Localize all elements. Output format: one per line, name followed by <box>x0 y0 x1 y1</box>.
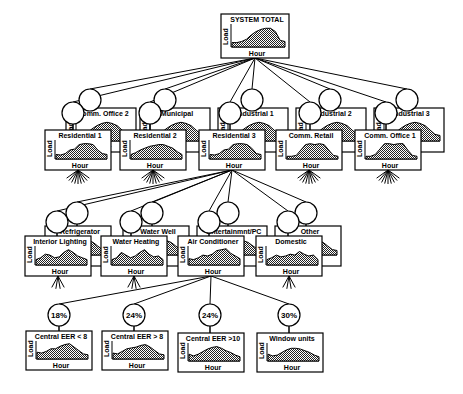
node-title: Interior Lighting <box>33 238 87 246</box>
y-axis-label: Load <box>200 140 207 157</box>
node-title: Residential 2 <box>133 132 176 139</box>
node-title: Window units <box>269 335 315 342</box>
link-ac-central-eer-gt-8 <box>134 276 211 304</box>
y-axis-label: Load <box>179 246 186 263</box>
share-percent: 24% <box>202 311 218 320</box>
x-axis-label: Hour <box>128 268 145 275</box>
share-percent: 30% <box>281 311 297 320</box>
share-bubble <box>141 202 163 224</box>
link-root-comm-retail <box>255 58 310 102</box>
node-title: SYSTEM TOTAL <box>230 16 284 23</box>
x-axis-label: Hour <box>226 162 243 169</box>
y-axis-label: Load <box>179 342 186 359</box>
share-bubble <box>277 211 299 233</box>
x-axis-label: Hour <box>205 364 222 371</box>
node-window-units: Window unitsLoadHour30% <box>257 304 323 372</box>
node-title: Other <box>301 228 320 235</box>
y-axis-label: Load <box>277 140 284 157</box>
x-axis-label: Hour <box>284 364 301 371</box>
load-tree-diagram: Comm. Office 2LoadHourMunicipalLoadHourI… <box>0 0 463 394</box>
link-res3-entertainment-pc <box>228 170 232 202</box>
node-title: Central EER < 8 <box>35 333 87 340</box>
y-axis-label: Load <box>258 342 265 359</box>
link-root-industrial-3 <box>255 58 407 89</box>
x-axis-label: Hour <box>283 268 300 275</box>
x-axis-label: Hour <box>382 162 399 169</box>
share-bubble <box>46 211 68 233</box>
node-system-total: SYSTEM TOTALLoadHour <box>221 14 289 58</box>
x-axis-label: Hour <box>147 162 164 169</box>
share-bubble <box>198 211 220 233</box>
node-central-eer-gt-10: Central EER >10LoadHour24% <box>178 304 244 372</box>
node-title: Industrial 3 <box>392 110 429 117</box>
link-root-industrial-2 <box>255 58 330 89</box>
y-axis-label: Load <box>222 28 229 45</box>
y-axis-label: Load <box>102 246 109 263</box>
share-bubble <box>299 102 321 124</box>
share-bubble <box>375 102 397 124</box>
x-axis-label: Hour <box>205 268 222 275</box>
y-axis-label: Load <box>103 340 110 357</box>
node-title: Comm. Retail <box>289 132 334 139</box>
share-bubble <box>139 102 161 124</box>
x-axis-label: Hour <box>249 50 266 57</box>
node-title: Water Heating <box>113 238 160 246</box>
link-root-comm-office-2 <box>90 58 255 89</box>
node-title: Air Conditioner <box>188 238 239 245</box>
node-title: Comm. Office 2 <box>77 110 128 117</box>
link-root-municipal <box>165 58 255 89</box>
y-axis-label: Load <box>46 140 53 157</box>
y-axis-label: Load <box>356 140 363 157</box>
share-percent: 24% <box>126 311 142 320</box>
node-title: Residential 1 <box>58 132 101 139</box>
x-axis-label: Hour <box>53 362 70 369</box>
share-percent: 18% <box>51 311 67 320</box>
share-bubble <box>319 89 341 111</box>
x-axis-label: Hour <box>129 362 146 369</box>
y-axis-label: Load <box>257 246 264 263</box>
y-axis-label: Load <box>26 246 33 263</box>
node-central-eer-lt-8: Central EER < 8LoadHour18% <box>26 304 92 370</box>
y-axis-label: Load <box>27 340 34 357</box>
y-axis-label: Load <box>121 140 128 157</box>
share-bubble <box>66 202 88 224</box>
link-ac-window-units <box>211 276 289 304</box>
x-axis-label: Hour <box>52 268 69 275</box>
x-axis-label: Hour <box>72 162 89 169</box>
x-axis-label: Hour <box>303 162 320 169</box>
share-bubble <box>241 89 263 111</box>
share-bubble <box>120 211 142 233</box>
link-ac-central-eer-gt-10 <box>210 276 211 304</box>
node-central-eer-gt-8: Central EER > 8LoadHour24% <box>102 304 168 370</box>
node-title: Residential 3 <box>212 132 255 139</box>
foreground-nodes: SYSTEM TOTALLoadHourResidential 1LoadHou… <box>25 14 421 372</box>
share-bubble <box>396 89 418 111</box>
node-title: Domestic <box>275 238 307 245</box>
share-bubble <box>219 102 241 124</box>
node-title: Comm. Office 1 <box>364 132 415 139</box>
node-title: Central EER >10 <box>186 335 240 342</box>
node-title: Water Well <box>140 228 175 235</box>
share-bubble <box>62 102 84 124</box>
node-title: Central EER > 8 <box>111 333 163 340</box>
